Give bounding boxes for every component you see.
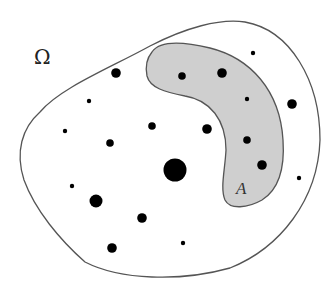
omega-dot-o5: [148, 122, 156, 130]
omega-dot-o11: [107, 243, 117, 253]
domain-diagram: Ω A: [0, 0, 332, 294]
omega-dot-o8: [70, 184, 74, 188]
omega-dot-o13: [251, 51, 255, 55]
omega-dot-o7: [164, 159, 187, 182]
subset-a-dot-a4: [243, 136, 251, 144]
omega-dot-o1: [111, 68, 121, 78]
omega-dot-o3: [63, 129, 67, 133]
subset-a-label: A: [235, 179, 247, 198]
subset-a-dot-a1: [178, 72, 186, 80]
omega-dot-o10: [137, 213, 147, 223]
omega-dot-o12: [181, 241, 185, 245]
omega-label: Ω: [34, 45, 51, 69]
subset-a-region: [146, 43, 283, 207]
omega-dot-o9: [90, 195, 103, 208]
omega-dot-o2: [87, 99, 91, 103]
omega-dot-o15: [297, 176, 301, 180]
subset-a-dot-a3: [245, 97, 249, 101]
subset-a-dot-a2: [217, 68, 227, 78]
omega-dot-o4: [106, 139, 114, 147]
omega-dot-o14: [287, 99, 297, 109]
omega-dot-o6: [202, 124, 212, 134]
subset-a-dot-a5: [257, 160, 267, 170]
